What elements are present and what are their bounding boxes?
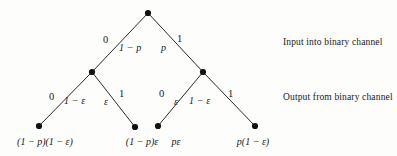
branch-label-left-right-symbol: 1 (119, 89, 124, 100)
leaf-outcome-4: p(1 − ε) (237, 137, 269, 147)
branch-label-root-right-probability: p (161, 43, 166, 53)
branch-label-right-right-symbol: 1 (228, 89, 233, 100)
branch-label-root-left-symbol: 0 (103, 35, 108, 46)
expr-one-minus-eps-b: 1 − ε (189, 95, 210, 106)
expr-eps-b: ε (174, 96, 178, 107)
tree-nodes (36, 10, 258, 130)
tree-edges (39, 13, 255, 127)
tree-graphics (0, 0, 397, 156)
branch-label-root-right-symbol: 1 (177, 34, 182, 45)
node-right (200, 69, 206, 75)
branch-label-right-left-symbol: 0 (159, 89, 164, 100)
branch-label-root-left-probability: 1 − p (119, 43, 141, 53)
leaf-outcome-1: (1 − p)(1 − ε) (17, 137, 73, 147)
expr-eps-a: ε (104, 96, 108, 107)
expr-one-minus-eps-a: 1 − ε (64, 95, 85, 106)
expr-one-minus-p: 1 − p (119, 42, 141, 53)
leaf-outcome-2: (1 − p)ε (126, 137, 158, 147)
probability-tree-figure: 0 1 − p p 1 0 1 − ε ε 1 0 ε 1 − ε 1 Inpu… (0, 0, 397, 156)
annotation-input-level: Input into binary channel (283, 38, 383, 48)
node-leaf-1 (36, 123, 42, 129)
node-leaf-3 (155, 123, 161, 129)
edge-root-right (148, 13, 203, 72)
node-root (145, 10, 151, 16)
edge-left-leaf2 (92, 72, 135, 127)
node-leaf-4 (252, 123, 258, 129)
expr-p: p (161, 42, 166, 53)
branch-label-left-left-probability: 1 − ε (64, 96, 85, 106)
node-leaf-2 (132, 124, 138, 130)
branch-label-left-right-probability: ε (104, 97, 108, 107)
leaf-outcome-3: pε (172, 137, 181, 147)
branch-label-right-left-probability: ε (174, 97, 178, 107)
node-left (89, 69, 95, 75)
branch-label-right-right-probability: 1 − ε (189, 96, 210, 106)
annotation-output-level: Output from binary channel (283, 93, 393, 103)
branch-label-left-left-symbol: 0 (49, 92, 54, 103)
